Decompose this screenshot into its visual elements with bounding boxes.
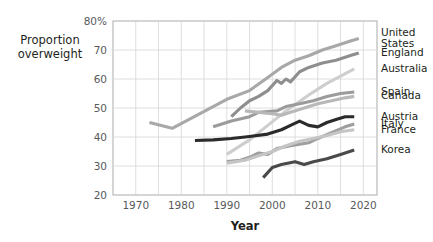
x-tick-label: 2020 (350, 199, 377, 211)
y-tick-label: 50 (94, 102, 107, 114)
legend-label-australia: Australia (381, 62, 427, 74)
y-axis-tick-labels: 20304050607080% (84, 15, 107, 201)
x-tick-label: 2010 (304, 199, 331, 211)
x-tick-label: 1970 (122, 199, 149, 211)
chart-legend: UnitedStatesEnglandAustraliaSpainCanadaA… (381, 26, 427, 155)
x-axis-title: Year (113, 219, 377, 233)
y-tick-label: 20 (94, 189, 107, 201)
x-axis-tick-labels: 197019801990200020102020 (122, 199, 376, 211)
overweight-proportion-line-chart: Proportion overweight 20304050607080% 19… (0, 0, 433, 242)
y-tick-label: 30 (94, 160, 107, 172)
legend-label-canada: Canada (381, 89, 421, 101)
legend-label-france: France (381, 123, 416, 135)
x-tick-label: 1990 (213, 199, 240, 211)
x-tick-label: 1980 (168, 199, 195, 211)
y-tick-label: 80% (84, 15, 107, 27)
x-tick-label: 2000 (259, 199, 286, 211)
y-tick-label: 70 (94, 44, 107, 56)
legend-label-england: England (381, 46, 424, 58)
legend-label-korea: Korea (381, 143, 411, 155)
chart-plot-area: 20304050607080% 197019801990200020102020… (0, 0, 433, 242)
y-tick-label: 60 (94, 73, 107, 85)
y-tick-label: 40 (94, 131, 107, 143)
